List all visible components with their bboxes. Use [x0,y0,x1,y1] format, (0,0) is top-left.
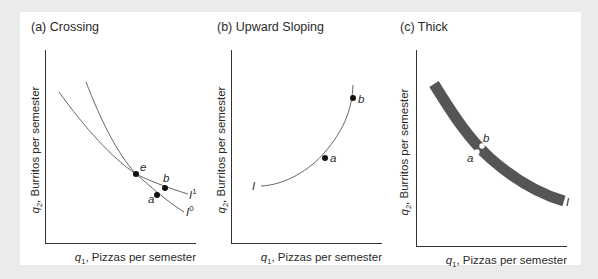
label-i0: I0 [186,204,194,218]
label-b: b [358,93,365,105]
panel-b-title: (b) Upward Sloping [217,20,324,34]
figure: (a) Crossing q2, Burritos per semester q… [0,0,598,279]
label-b: b [483,132,490,144]
label-b: b [163,172,170,184]
curve-i0 [59,92,184,212]
label-a: a [330,152,336,164]
panel-c-ylabel: q2, Burritos per semester [398,88,413,215]
curve-i [261,85,353,186]
point-a [154,192,160,198]
panel-a-title: (a) Crossing [31,20,99,34]
label-e: e [140,161,146,173]
point-b [162,185,168,191]
label-i1: I1 [189,187,197,201]
point-a [474,149,479,154]
point-b [350,95,356,101]
panel-c-thick: (c) Thick q2, Burritos per semester q1, … [398,20,570,269]
panel-b-xlabel: q1, Pizzas per semester [261,251,382,266]
panel-a-ylabel: q2, Burritos per semester [29,86,44,213]
panel-a-xlabel: q1, Pizzas per semester [75,251,196,266]
curve-i1 [86,82,188,194]
label-i: I [252,180,256,192]
thick-band-i [434,84,564,201]
panel-b-upward-sloping: (b) Upward Sloping q2, Burritos per seme… [215,20,382,266]
panel-a-crossing: (a) Crossing q2, Burritos per semester q… [29,20,197,266]
label-i: I [566,196,570,208]
label-a: a [467,152,473,164]
point-e [133,171,139,177]
label-a: a [148,193,154,205]
panel-b-ylabel: q2, Burritos per semester [215,86,230,213]
panel-c-xlabel: q1, Pizzas per semester [446,254,567,269]
panel-c-title: (c) Thick [400,20,448,34]
point-a [322,155,328,161]
point-b [479,143,484,148]
